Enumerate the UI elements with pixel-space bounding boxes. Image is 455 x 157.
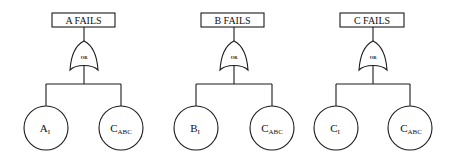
top-event-label-c: C FAILS (354, 15, 390, 26)
fault-tree-diagram: A FAILS OR AI CABC B FAILS OR BI CABC C … (0, 0, 455, 157)
top-event-label-b: B FAILS (214, 15, 250, 26)
fault-tree-c: C FAILS OR CI CABC (314, 13, 432, 150)
gate-label-c: OR (370, 55, 378, 60)
fault-tree-b: B FAILS OR BI CABC (174, 13, 294, 150)
gate-label-b: OR (231, 55, 239, 60)
top-event-label-a: A FAILS (65, 15, 101, 26)
fault-tree-a: A FAILS OR AI CABC (24, 13, 143, 150)
gate-label-a: OR (81, 55, 89, 60)
